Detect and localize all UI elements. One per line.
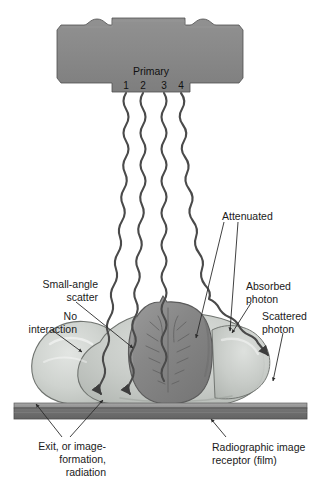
radiography-attenuation-diagram: Primary 1 2 3 4 (0, 0, 323, 495)
label-scattered-photon-line2: photon (262, 323, 294, 335)
leader-scattered-photon (273, 333, 283, 381)
leader-image-receptor (211, 419, 226, 437)
label-exit-radiation-line1: Exit, or image- (38, 440, 106, 452)
label-small-angle-scatter-line2: scatter (66, 291, 98, 303)
label-image-receptor-line2: receptor (film) (212, 454, 277, 466)
central-organ-vertebra (129, 296, 213, 404)
beam-number-3: 3 (161, 80, 167, 91)
label-no-interaction-line1: No (64, 310, 78, 322)
beam-number-2: 2 (140, 80, 146, 91)
radiographic-film-receptor (14, 403, 307, 419)
beam-number-4: 4 (178, 80, 184, 91)
soft-tissue-right-lobe (212, 326, 270, 399)
label-small-angle-scatter-line1: Small-angle (43, 278, 99, 290)
label-exit-radiation-line2: formation, (59, 453, 106, 465)
x-ray-tube-housing (57, 18, 243, 92)
label-exit-radiation-line3: radiation (66, 466, 106, 478)
film-body (14, 408, 307, 419)
film-top-stripe (14, 403, 307, 408)
leader-attenuated-b (230, 222, 238, 331)
beam-number-1: 1 (123, 80, 129, 91)
label-attenuated: Attenuated (222, 210, 273, 222)
x-ray-tube-assembly (57, 18, 243, 92)
primary-label: Primary (133, 65, 170, 77)
label-absorbed-photon-line1: Absorbed (246, 280, 291, 292)
label-image-receptor-line1: Radiographic image (212, 441, 306, 453)
label-absorbed-photon-line2: photon (246, 293, 278, 305)
label-scattered-photon-line1: Scattered (262, 310, 307, 322)
label-no-interaction-line2: interaction (29, 323, 78, 335)
